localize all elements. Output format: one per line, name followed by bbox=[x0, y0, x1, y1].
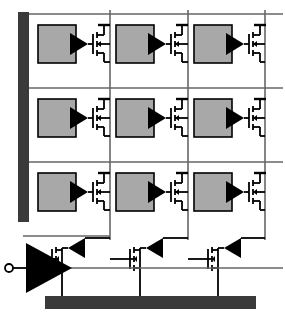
cell-buffer-triangle bbox=[226, 33, 244, 55]
cell-buffer-triangle bbox=[226, 181, 244, 203]
column-driver-2 bbox=[110, 238, 188, 296]
cell-buffer-triangle bbox=[148, 181, 166, 203]
driver-buffer-triangle bbox=[68, 238, 85, 258]
cell-buffer-triangle bbox=[70, 107, 88, 129]
cell-buffer-triangle bbox=[70, 181, 88, 203]
column-driver-3 bbox=[188, 238, 265, 296]
cell-access-transistor bbox=[244, 99, 266, 136]
input-buffer-amplifier bbox=[26, 243, 72, 293]
cell-access-transistor bbox=[88, 173, 110, 210]
cell-access-transistor bbox=[166, 25, 188, 62]
cell-r1-c1 bbox=[38, 25, 110, 63]
cell-access-transistor bbox=[88, 25, 110, 62]
cell-r3-c3 bbox=[194, 173, 266, 211]
cell-access-transistor bbox=[244, 173, 266, 210]
signal-input-terminal[interactable] bbox=[5, 264, 13, 272]
cell-access-transistor bbox=[166, 173, 188, 210]
cell-r2-c3 bbox=[194, 99, 266, 137]
schematic-canvas bbox=[0, 0, 285, 317]
cell-r2-c1 bbox=[38, 99, 110, 137]
cell-access-transistor bbox=[166, 99, 188, 136]
driver-buffer-triangle bbox=[146, 238, 163, 258]
row-select-bus bbox=[18, 12, 29, 222]
cell-buffer-triangle bbox=[226, 107, 244, 129]
cell-r1-c2 bbox=[116, 25, 188, 63]
cell-buffer-triangle bbox=[148, 33, 166, 55]
circuit-diagram bbox=[0, 0, 285, 317]
cell-r1-c3 bbox=[194, 25, 266, 63]
cell-r3-c2 bbox=[116, 173, 188, 211]
cell-r2-c2 bbox=[116, 99, 188, 137]
cell-buffer-triangle bbox=[70, 33, 88, 55]
cell-access-transistor bbox=[244, 25, 266, 62]
ground-bus bbox=[45, 296, 256, 309]
cell-access-transistor bbox=[88, 99, 110, 136]
driver-buffer-triangle bbox=[224, 238, 241, 258]
cell-buffer-triangle bbox=[148, 107, 166, 129]
cell-r3-c1 bbox=[38, 173, 110, 211]
